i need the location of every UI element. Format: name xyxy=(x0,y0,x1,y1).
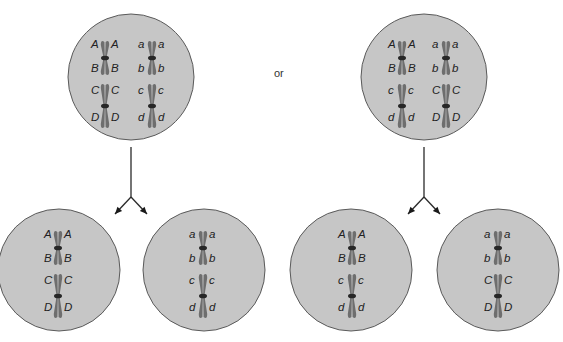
allele-label: D xyxy=(44,301,52,313)
allele-label: A xyxy=(357,228,366,240)
allele-label: D xyxy=(432,111,440,123)
allele-label: d xyxy=(209,301,216,313)
allele-label: d xyxy=(358,301,365,313)
allele-label: b xyxy=(209,252,216,264)
centromere xyxy=(199,294,207,299)
cell-membrane xyxy=(361,14,487,140)
allele-label: a xyxy=(452,38,458,50)
allele-label: B xyxy=(64,252,72,264)
allele-label: D xyxy=(452,111,460,123)
centromere xyxy=(54,294,62,299)
centromere xyxy=(199,246,207,251)
or-label: or xyxy=(274,67,284,79)
allele-label: d xyxy=(388,111,395,123)
allele-label: d xyxy=(408,111,415,123)
allele-label: b xyxy=(504,252,511,264)
allele-label: A xyxy=(337,228,346,240)
centromere xyxy=(148,104,156,109)
allele-label: d xyxy=(158,111,165,123)
allele-label: B xyxy=(338,252,346,264)
centromere xyxy=(148,56,156,61)
meiosis-diagram: or AABBaabbCCDDccddAABBCCDDaabbccddAABBa… xyxy=(0,0,563,342)
parent-cell-1: AABBaabbCCDDccdd xyxy=(68,14,194,140)
allele-label: b xyxy=(138,62,145,74)
allele-label: D xyxy=(64,301,72,313)
division-arrow xyxy=(115,147,147,214)
allele-label: B xyxy=(111,62,119,74)
allele-label: a xyxy=(189,228,195,240)
allele-label: a xyxy=(138,38,144,50)
allele-label: b xyxy=(484,252,491,264)
cell-membrane xyxy=(437,209,559,331)
allele-label: a xyxy=(209,228,215,240)
allele-label: d xyxy=(138,111,145,123)
allele-label: C xyxy=(504,274,513,286)
allele-label: C xyxy=(91,84,100,96)
allele-label: A xyxy=(110,38,119,50)
allele-label: D xyxy=(91,111,99,123)
cells-layer: AABBaabbCCDDccddAABBCCDDaabbccddAABBaabb… xyxy=(0,14,559,331)
centromere xyxy=(54,246,62,251)
allele-label: b xyxy=(432,62,439,74)
allele-label: c xyxy=(158,84,164,96)
allele-label: A xyxy=(90,38,99,50)
allele-label: a xyxy=(504,228,510,240)
allele-label: A xyxy=(387,38,396,50)
allele-label: c xyxy=(388,84,394,96)
allele-label: A xyxy=(43,228,52,240)
centromere xyxy=(348,246,356,251)
allele-label: c xyxy=(189,274,195,286)
allele-label: C xyxy=(64,274,73,286)
centromere xyxy=(101,56,109,61)
allele-label: D xyxy=(504,301,512,313)
centromere xyxy=(442,56,450,61)
division-arrow xyxy=(408,147,440,214)
cell-membrane xyxy=(68,14,194,140)
allele-label: a xyxy=(158,38,164,50)
allele-label: d xyxy=(189,301,196,313)
allele-label: A xyxy=(407,38,416,50)
centromere xyxy=(101,104,109,109)
allele-label: d xyxy=(338,301,345,313)
allele-label: B xyxy=(358,252,366,264)
allele-label: C xyxy=(432,84,441,96)
allele-label: B xyxy=(408,62,416,74)
centromere xyxy=(348,294,356,299)
daughter-cell-1-2: aabbccdd xyxy=(143,209,265,331)
centromere xyxy=(398,56,406,61)
allele-label: C xyxy=(452,84,461,96)
daughter-cell-2-1: AABBccdd xyxy=(290,209,412,331)
allele-label: b xyxy=(189,252,196,264)
allele-label: b xyxy=(452,62,459,74)
allele-label: C xyxy=(111,84,120,96)
allele-label: a xyxy=(432,38,438,50)
allele-label: a xyxy=(484,228,490,240)
allele-label: c xyxy=(209,274,215,286)
allele-label: c xyxy=(358,274,364,286)
centromere xyxy=(398,104,406,109)
centromere xyxy=(494,246,502,251)
allele-label: C xyxy=(44,274,53,286)
allele-label: B xyxy=(388,62,396,74)
allele-label: A xyxy=(63,228,72,240)
allele-label: D xyxy=(111,111,119,123)
allele-label: B xyxy=(91,62,99,74)
allele-label: c xyxy=(408,84,414,96)
parent-cell-2: AABBaabbccddCCDD xyxy=(361,14,487,140)
daughter-cell-1-1: AABBCCDD xyxy=(0,209,120,331)
allele-label: c xyxy=(338,274,344,286)
allele-label: b xyxy=(158,62,165,74)
centromere xyxy=(494,294,502,299)
allele-label: C xyxy=(484,274,493,286)
allele-label: c xyxy=(138,84,144,96)
centromere xyxy=(442,104,450,109)
allele-label: B xyxy=(44,252,52,264)
allele-label: D xyxy=(484,301,492,313)
daughter-cell-2-2: aabbCCDD xyxy=(437,209,559,331)
